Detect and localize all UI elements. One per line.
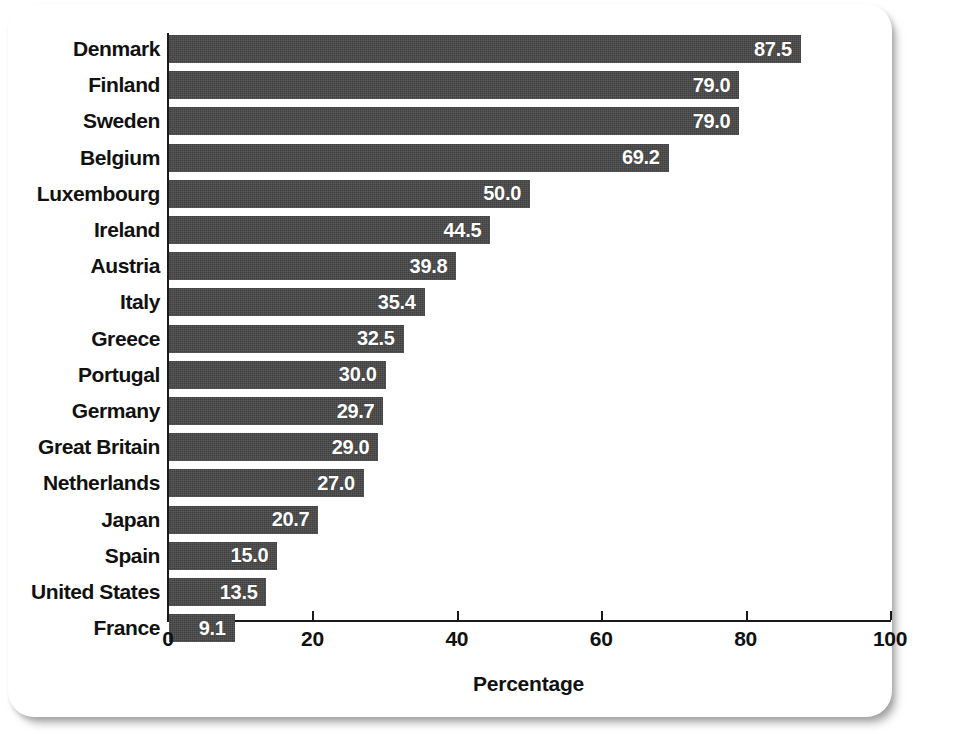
bar-row: France9.1 [0,614,957,642]
bar: 15.0 [169,542,277,570]
bar-row: Ireland44.5 [0,216,957,244]
x-axis-tick [746,611,748,620]
bar: 29.7 [169,397,383,425]
x-axis-title: Percentage [0,672,957,696]
category-label: Ireland [94,216,160,244]
x-axis-tick [890,611,892,620]
bar-row: Great Britain29.0 [0,433,957,461]
bar-value-label: 9.1 [199,617,235,640]
bar-value-label: 29.0 [332,436,379,459]
bar-value-label: 44.5 [444,219,491,242]
bar: 27.0 [169,469,364,497]
category-label: Finland [88,71,160,99]
bar-row: Germany29.7 [0,397,957,425]
bar: 13.5 [169,578,266,606]
x-axis-tick [457,611,459,620]
bar-value-label: 79.0 [693,74,740,97]
bar-value-label: 39.8 [410,255,457,278]
bar-value-label: 69.2 [622,146,669,169]
category-label: Denmark [73,35,160,63]
bar: 79.0 [169,71,739,99]
bar: 35.4 [169,288,425,316]
bar: 69.2 [169,144,669,172]
bar-value-label: 35.4 [378,291,425,314]
bar-row: Netherlands27.0 [0,469,957,497]
category-label: Belgium [80,144,160,172]
x-axis-tick-label: 0 [162,627,173,651]
category-label: United States [31,578,160,606]
bar: 29.0 [169,433,378,461]
bar-value-label: 50.0 [483,182,530,205]
bar-value-label: 32.5 [357,327,404,350]
bar-value-label: 30.0 [339,363,386,386]
bar: 79.0 [169,107,739,135]
x-axis-tick-label: 60 [590,627,613,651]
bar: 39.8 [169,252,456,280]
x-axis-tick-label: 80 [734,627,757,651]
x-axis-tick-label: 100 [873,627,907,651]
category-label: Netherlands [43,469,160,497]
bar-value-label: 27.0 [317,472,364,495]
x-axis-tick-label: 20 [301,627,324,651]
bar-value-label: 13.5 [220,581,267,604]
category-label: Sweden [83,107,160,135]
bar-value-label: 79.0 [693,110,740,133]
bar-row: Austria39.8 [0,252,957,280]
bar-row: Sweden79.0 [0,107,957,135]
x-axis-tick [601,611,603,620]
bar: 50.0 [169,180,530,208]
category-label: Germany [72,397,160,425]
category-label: Italy [120,288,160,316]
category-label: France [94,614,160,642]
bar-value-label: 29.7 [337,400,384,423]
x-axis-tick [312,611,314,620]
bar: 44.5 [169,216,490,244]
bar-value-label: 87.5 [754,38,801,61]
bar: 20.7 [169,506,318,534]
bar-chart: Denmark87.5Finland79.0Sweden79.0Belgium6… [0,0,957,743]
x-axis-tick-label: 40 [445,627,468,651]
bar: 87.5 [169,35,801,63]
bar-value-label: 15.0 [231,544,278,567]
bar: 32.5 [169,325,404,353]
bar: 9.1 [169,614,235,642]
bar-row: Spain15.0 [0,542,957,570]
category-label: Luxembourg [37,180,160,208]
bar-row: Italy35.4 [0,288,957,316]
category-label: Spain [105,542,160,570]
bar-row: Finland79.0 [0,71,957,99]
category-label: Portugal [78,361,160,389]
category-label: Austria [90,252,160,280]
category-label: Greece [91,325,160,353]
bar-row: Japan20.7 [0,506,957,534]
bar-value-label: 20.7 [272,508,319,531]
bar-row: Belgium69.2 [0,144,957,172]
bar-row: Portugal30.0 [0,361,957,389]
bar-row: Greece32.5 [0,325,957,353]
category-label: Great Britain [38,433,160,461]
bar-row: Luxembourg50.0 [0,180,957,208]
category-label: Japan [101,506,160,534]
bar-row: Denmark87.5 [0,35,957,63]
bar: 30.0 [169,361,386,389]
bar-row: United States13.5 [0,578,957,606]
